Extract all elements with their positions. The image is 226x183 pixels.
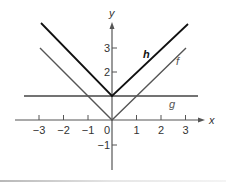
- y-axis: y 3 2 −1: [97, 7, 117, 170]
- y-tick-label: −1: [97, 139, 110, 151]
- x-tick-label: 1: [133, 124, 139, 136]
- y-tick-label: 2: [104, 66, 110, 78]
- series-g-label: g: [169, 98, 176, 110]
- series-h-line: [41, 23, 188, 96]
- x-tick-label: 0: [104, 124, 110, 136]
- x-axis-arrow-icon: [198, 118, 205, 123]
- x-tick-label: −1: [82, 124, 95, 136]
- series-h-label: h: [143, 48, 150, 60]
- series-f-line: [40, 48, 186, 120]
- y-axis-label: y: [108, 7, 116, 19]
- y-axis-arrow-icon: [110, 22, 115, 29]
- function-graph: x −3 −2 −1 0 1 2 3 y 3 2 −1: [0, 0, 226, 183]
- bottom-divider: [0, 180, 226, 182]
- x-tick-label: 3: [182, 124, 188, 136]
- series-f-label: f: [176, 55, 180, 67]
- x-tick-label: 2: [158, 124, 164, 136]
- x-axis-label: x: [208, 114, 215, 126]
- x-tick-label: −2: [57, 124, 70, 136]
- y-tick-label: 3: [104, 42, 110, 54]
- x-tick-label: −3: [33, 124, 46, 136]
